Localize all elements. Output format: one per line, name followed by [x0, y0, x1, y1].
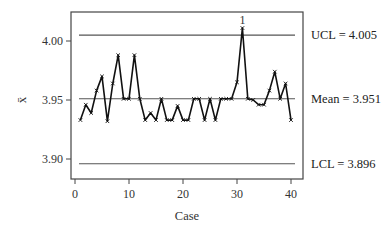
x-tick-label: 30	[231, 187, 243, 201]
x-tick-label: 0	[72, 187, 78, 201]
y-tick-label: 3.90	[42, 152, 63, 166]
ucl-label: UCL = 4.005	[311, 28, 377, 42]
y-tick-label: 4.00	[42, 34, 63, 48]
mean-label: Mean = 3.951	[311, 92, 381, 106]
x-axis-label: Case	[175, 209, 200, 223]
control-chart: 3.903.954.00 010203040 UCL = 4.005Mean =…	[0, 0, 386, 226]
y-tick-label: 3.95	[42, 93, 63, 107]
annotations: 1	[239, 13, 245, 27]
xbar-line	[80, 28, 291, 121]
y-axis-label: x̄	[14, 96, 29, 103]
x-tick-label: 40	[285, 187, 297, 201]
data-series	[79, 26, 293, 123]
y-axis-ticks: 3.903.954.00	[42, 34, 71, 166]
x-tick-label: 20	[177, 187, 189, 201]
x-tick-label: 10	[123, 187, 135, 201]
x-axis-ticks: 010203040	[72, 179, 297, 201]
lcl-label: LCL = 3.896	[311, 157, 376, 171]
out-of-control-flag: 1	[239, 13, 245, 27]
